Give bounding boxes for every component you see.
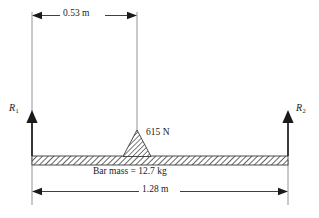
bar-mass-label: Bar mass = 12.7 kg [93, 167, 167, 177]
top-dimension-arrowhead-right [127, 12, 137, 19]
reaction-left-symbol: R [9, 102, 15, 113]
bottom-dimension-arrowhead-right [278, 188, 288, 195]
bottom-dimension-arrowhead-left [32, 188, 42, 195]
beam-diagram: 0.53 m 1.28 m Bar mass = 12.7 kg 615 N R… [0, 0, 319, 218]
top-dimension-label: 0.53 m [63, 9, 89, 19]
top-dimension-arrowhead-left [32, 12, 42, 19]
bottom-dimension-label: 1.28 m [142, 185, 168, 195]
point-load-label: 615 N [146, 128, 170, 138]
beam-bar [32, 156, 288, 165]
reaction-right-subscript: 2 [303, 107, 306, 114]
reaction-left-subscript: 1 [16, 107, 19, 114]
reaction-arrow-right-head [282, 110, 293, 123]
reaction-arrow-left-head [26, 110, 37, 123]
reaction-right-label: R2 [296, 103, 305, 113]
reaction-right-symbol: R [296, 102, 302, 113]
reaction-left-label: R1 [9, 103, 18, 113]
